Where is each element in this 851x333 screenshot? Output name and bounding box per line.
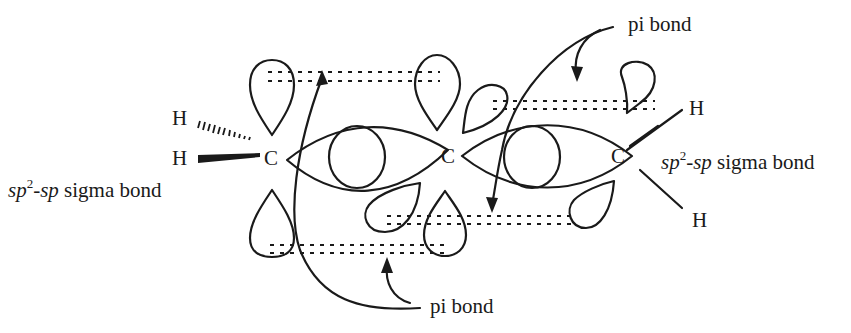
atom-c-left: C — [264, 148, 278, 169]
arrow-pi-bottom-to-top — [294, 78, 420, 309]
arrowhead-down-right — [486, 197, 498, 213]
sigma-circle-right — [504, 126, 560, 188]
arrowhead-down-top — [571, 66, 583, 82]
atom-h-right-bottom: H — [692, 210, 707, 231]
label-sigma-bond-right: sp2-sp sigma bond — [661, 152, 815, 173]
atom-h-left-top: H — [172, 108, 187, 129]
sigma-right-suffix: sigma bond — [712, 150, 815, 174]
bond-right-top-2 — [630, 126, 658, 146]
sigma-lens-right — [462, 125, 632, 187]
wedge-bond — [198, 153, 260, 163]
p-orbital-center-top — [415, 55, 460, 130]
allene-orbital-diagram: C C C H H H H pi bond pi bond sp2-sp sig… — [0, 0, 851, 333]
label-sigma-bond-left: sp2-sp sigma bond — [8, 180, 162, 201]
p-orbital-right-top — [621, 62, 655, 113]
sigma-lens-left — [287, 127, 448, 191]
atom-c-right: C — [611, 146, 625, 167]
p-orbital-left-bottom — [250, 190, 294, 257]
p-orbital-right-bottom — [570, 181, 614, 228]
atom-h-left-bottom: H — [172, 148, 187, 169]
hashed-bond — [198, 121, 250, 140]
sigma-right-mid: -sp — [686, 150, 712, 174]
bond-right-bottom — [640, 170, 682, 208]
sigma-left-prefix: sp — [8, 178, 27, 202]
label-pi-bond-top: pi bond — [628, 14, 692, 35]
label-pi-bond-bottom: pi bond — [430, 296, 494, 317]
sigma-left-suffix: sigma bond — [59, 178, 162, 202]
sigma-circle-left — [329, 126, 385, 188]
p-orbital-center-top-right — [463, 85, 507, 133]
atom-h-right-top: H — [689, 98, 704, 119]
sigma-left-mid: -sp — [33, 178, 59, 202]
sigma-right-prefix: sp — [661, 150, 680, 174]
arrowhead-up-bottom — [381, 257, 393, 273]
atom-c-center: C — [441, 146, 455, 167]
bond-right-top-1 — [627, 110, 682, 150]
